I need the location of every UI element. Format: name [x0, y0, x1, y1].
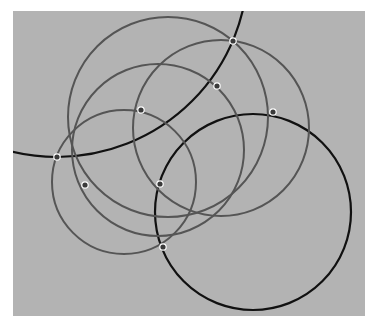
- intersection-point-p3[interactable]: [270, 109, 276, 115]
- intersection-point-p1[interactable]: [230, 38, 236, 44]
- intersection-point-p8[interactable]: [160, 244, 166, 250]
- intersection-point-p4[interactable]: [138, 107, 144, 113]
- intersection-point-p7[interactable]: [157, 181, 163, 187]
- intersection-point-p2[interactable]: [214, 83, 220, 89]
- drawing-plane: [13, 11, 365, 316]
- geometry-canvas: [0, 0, 384, 328]
- intersection-point-p6[interactable]: [82, 182, 88, 188]
- intersection-point-p5[interactable]: [54, 154, 60, 160]
